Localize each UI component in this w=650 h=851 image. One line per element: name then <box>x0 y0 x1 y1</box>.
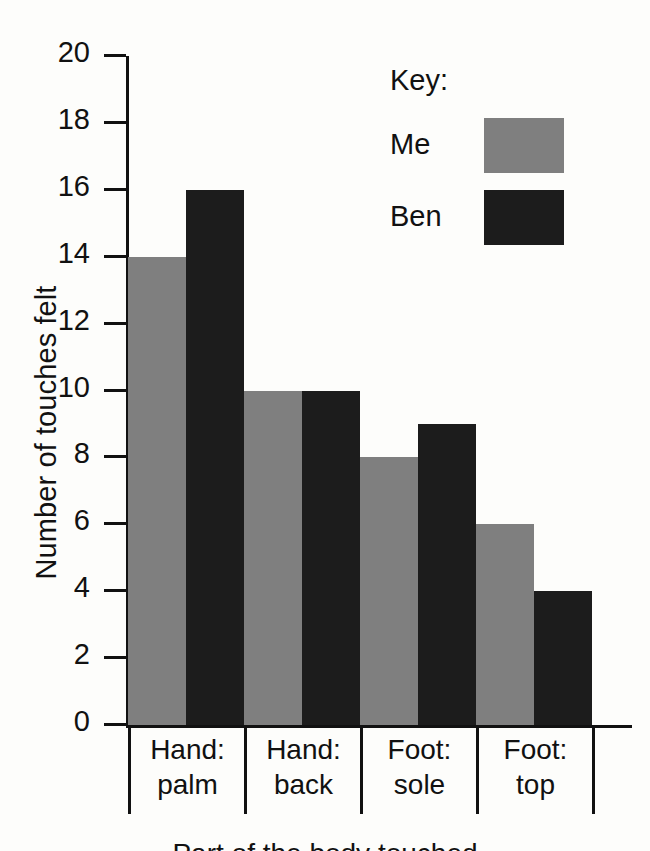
y-axis-tick-label: 16 <box>58 170 90 203</box>
x-axis-category-label-line: back <box>274 767 333 802</box>
y-axis-tick-mark <box>104 322 126 325</box>
bar-ben-hand-back <box>302 391 360 726</box>
legend-entry-label: Me <box>390 128 430 161</box>
y-axis-tick-label: 2 <box>74 638 90 671</box>
legend-entry-ben: Ben <box>372 190 602 248</box>
x-axis-title: Part of the body touched <box>0 838 650 851</box>
y-axis-tick-label: 20 <box>58 36 90 69</box>
bar-ben-foot-sole <box>418 424 476 725</box>
y-axis-tick-mark <box>104 656 126 659</box>
bar-group <box>244 56 360 725</box>
x-axis-category-label-line: Foot: <box>388 732 452 767</box>
x-axis-category-label-line: Hand: <box>150 732 225 767</box>
y-axis-tick-label: 14 <box>58 237 90 270</box>
x-axis-category-hand-palm: Hand:palm <box>128 728 244 814</box>
x-axis-category-labels: Hand:palmHand:backFoot:soleFoot:top <box>126 728 632 814</box>
bar-ben-hand-palm <box>186 190 244 725</box>
y-axis-tick-label: 0 <box>74 705 90 738</box>
x-axis-category-foot-top: Foot:top <box>476 728 592 814</box>
y-axis-tick-label: 6 <box>74 504 90 537</box>
legend-entry-swatch <box>484 190 564 245</box>
bar-me-hand-palm <box>128 257 186 725</box>
bar-ben-foot-top <box>534 591 592 725</box>
y-axis-tick-mark <box>104 188 126 191</box>
x-axis-category-foot-sole: Foot:sole <box>360 728 476 814</box>
legend-entry-label: Ben <box>390 200 442 233</box>
y-axis-tick-label: 8 <box>74 437 90 470</box>
x-axis-category-label-line: palm <box>157 767 218 802</box>
x-axis-end-divider <box>592 728 630 814</box>
legend-title: Key: <box>390 64 448 97</box>
y-axis-tick-label: 10 <box>58 371 90 404</box>
y-axis-tick-mark <box>104 255 126 258</box>
bar-group <box>128 56 244 725</box>
y-axis-tick-mark <box>104 589 126 592</box>
legend-entry-swatch <box>484 118 564 173</box>
y-axis-tick-mark <box>104 522 126 525</box>
x-axis-category-hand-back: Hand:back <box>244 728 360 814</box>
x-axis-category-label-line: sole <box>394 767 445 802</box>
x-axis-category-label-line: Foot: <box>504 732 568 767</box>
y-axis-tick-mark <box>104 121 126 124</box>
x-axis-category-label-line: Hand: <box>266 732 341 767</box>
bar-me-foot-sole <box>360 457 418 725</box>
y-axis-tick-mark <box>104 54 126 57</box>
y-axis-tick-mark <box>104 723 126 726</box>
x-axis-category-label-line: top <box>516 767 555 802</box>
y-axis-tick-mark <box>104 389 126 392</box>
y-axis-tick-label: 4 <box>74 571 90 604</box>
y-axis-tick-label: 12 <box>58 304 90 337</box>
legend-entry-me: Me <box>372 118 602 176</box>
bar-me-foot-top <box>476 524 534 725</box>
y-axis-title: Number of touches felt <box>30 123 63 743</box>
bar-chart: Number of touches felt 20181614121086420… <box>0 0 650 851</box>
y-axis-tick-label: 18 <box>58 103 90 136</box>
y-axis-tick-mark <box>104 455 126 458</box>
bar-me-hand-back <box>244 391 302 726</box>
